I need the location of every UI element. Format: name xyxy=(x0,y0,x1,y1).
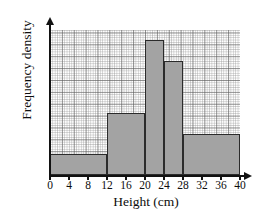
histogram-bar xyxy=(107,113,145,175)
x-axis-title: Height (cm) xyxy=(50,194,242,210)
histogram-bar xyxy=(183,134,240,175)
x-axis-tick-label: 40 xyxy=(229,179,251,192)
y-axis-arrow-icon xyxy=(46,17,54,25)
y-axis-title: Frequency density xyxy=(15,0,39,140)
histogram-bar xyxy=(50,154,107,175)
y-axis-line xyxy=(49,21,51,176)
histogram-bar xyxy=(164,61,183,175)
plot-area xyxy=(50,30,240,175)
x-axis-line xyxy=(49,175,246,177)
histogram-bar xyxy=(145,40,164,175)
histogram-figure: Frequency density 0481216202428323640 He… xyxy=(0,0,261,219)
